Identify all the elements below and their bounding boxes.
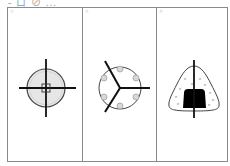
figure-frame: ① ② ③ <box>7 7 228 162</box>
panel-2: ② <box>82 8 156 161</box>
circle-dots-spokes-figure <box>83 8 157 163</box>
panel-3: ③ ee ee ee ee ee <box>156 8 227 161</box>
rounded-triangle-figure: ee ee ee ee ee <box>157 8 230 163</box>
circle-crosshair-figure <box>8 8 82 163</box>
panel-1: ① <box>8 8 82 161</box>
